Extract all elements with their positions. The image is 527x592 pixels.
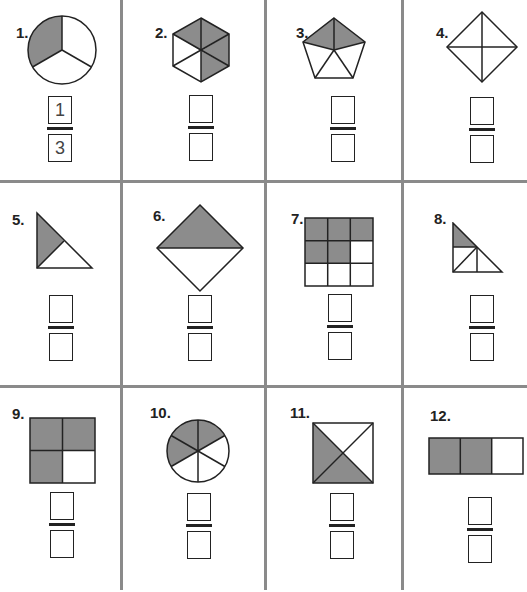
fraction-bar — [329, 524, 355, 527]
fraction-answer — [50, 492, 76, 558]
fraction-answer: 1 3 — [48, 96, 74, 162]
denominator-box[interactable] — [468, 535, 492, 563]
denominator-box[interactable] — [330, 531, 354, 559]
fraction-answer — [470, 97, 496, 163]
denominator-box[interactable] — [331, 134, 355, 162]
square-grid-ninths-figure — [304, 217, 374, 287]
grid-line-vertical-3 — [401, 0, 404, 590]
fraction-answer — [187, 493, 213, 559]
right-triangle-quarters-figure — [452, 222, 504, 274]
numerator-box[interactable] — [331, 96, 355, 124]
fraction-answer — [328, 294, 354, 360]
numerator-box[interactable] — [468, 497, 492, 525]
fraction-bar — [187, 326, 213, 329]
denominator-box[interactable]: 3 — [48, 134, 72, 162]
fraction-bar — [327, 325, 353, 328]
circle-sixths-figure — [166, 419, 230, 483]
square-grid-quarters-figure — [29, 417, 96, 484]
problem-number: 7. — [291, 210, 304, 227]
denominator-box[interactable] — [50, 530, 74, 558]
right-triangle-halves-figure — [35, 211, 95, 271]
grid-line-vertical-1 — [120, 0, 123, 590]
fraction-answer — [188, 295, 214, 361]
problem-number: 8. — [434, 210, 447, 227]
fraction-bar — [48, 326, 74, 329]
fraction-bar — [49, 523, 75, 526]
grid-line-horizontal-2 — [0, 385, 527, 388]
rectangle-thirds-figure — [428, 437, 524, 475]
diamond-halves-figure — [155, 203, 245, 293]
denominator-box[interactable] — [49, 333, 73, 361]
fraction-answer — [49, 295, 75, 361]
problem-number: 11. — [290, 404, 310, 421]
fraction-bar — [330, 127, 356, 130]
numerator-box[interactable] — [470, 97, 494, 125]
numerator-box[interactable] — [189, 95, 213, 123]
denominator-box[interactable] — [189, 133, 213, 161]
fraction-answer — [468, 497, 494, 563]
denominator-box[interactable] — [187, 531, 211, 559]
grid-line-horizontal-1 — [0, 180, 527, 183]
fraction-answer — [330, 493, 356, 559]
problem-number: 5. — [12, 211, 25, 228]
fraction-bar — [469, 128, 495, 131]
fraction-answer — [470, 295, 496, 361]
fraction-bar — [469, 326, 495, 329]
numerator-box[interactable]: 1 — [48, 96, 72, 124]
problem-number: 9. — [12, 405, 25, 422]
fraction-bar — [47, 127, 73, 130]
grid-line-vertical-2 — [264, 0, 267, 590]
problem-number: 12. — [430, 407, 451, 424]
denominator-box[interactable] — [188, 333, 212, 361]
numerator-box[interactable] — [49, 295, 73, 323]
numerator-box[interactable] — [328, 294, 352, 322]
fraction-answer — [331, 96, 357, 162]
square-diagonals-figure — [312, 422, 374, 484]
problem-number: 2. — [155, 24, 168, 41]
numerator-box[interactable] — [470, 295, 494, 323]
numerator-box[interactable] — [50, 492, 74, 520]
fraction-answer — [189, 95, 215, 161]
diamond-quarters-figure — [445, 10, 519, 84]
numerator-box[interactable] — [188, 295, 212, 323]
fraction-bar — [186, 524, 212, 527]
pentagon-fifths-figure — [301, 16, 367, 80]
fraction-bar — [188, 126, 214, 129]
numerator-box[interactable] — [187, 493, 211, 521]
hexagon-sixths-figure — [171, 16, 231, 84]
circle-thirds-figure — [26, 14, 98, 86]
denominator-box[interactable] — [470, 333, 494, 361]
denominator-box[interactable] — [328, 332, 352, 360]
denominator-box[interactable] — [470, 135, 494, 163]
fraction-bar — [467, 528, 493, 531]
numerator-box[interactable] — [330, 493, 354, 521]
